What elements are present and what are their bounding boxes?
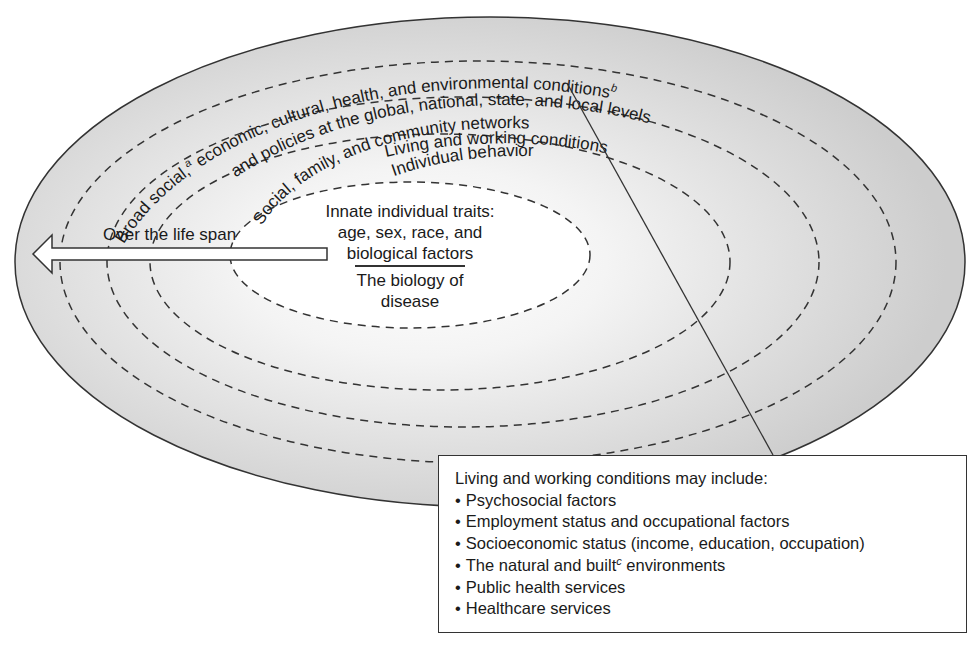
- innate-traits-line-2: age, sex, race, and: [300, 222, 520, 243]
- biology-of-disease-line-2: disease: [300, 291, 520, 312]
- innate-traits-block: Innate individual traits: age, sex, race…: [300, 201, 520, 312]
- innate-traits-line-3: biological factors: [300, 243, 520, 264]
- callout-list: Psychosocial factors Employment status a…: [455, 490, 966, 620]
- divider-rule: [355, 265, 465, 267]
- innate-traits-line-1: Innate individual traits:: [300, 201, 520, 222]
- callout-item: The natural and builtc environments: [455, 555, 966, 577]
- callout-item: Socioeconomic status (income, education,…: [455, 533, 966, 555]
- callout-item: Psychosocial factors: [455, 490, 966, 512]
- callout-item: Employment status and occupational facto…: [455, 511, 966, 533]
- living-conditions-callout-box: Living and working conditions may includ…: [438, 455, 967, 633]
- callout-item: Public health services: [455, 577, 966, 599]
- callout-heading: Living and working conditions may includ…: [455, 468, 966, 490]
- life-span-label: Over the life span: [103, 225, 236, 245]
- biology-of-disease-line-1: The biology of: [300, 270, 520, 291]
- callout-item: Healthcare services: [455, 598, 966, 620]
